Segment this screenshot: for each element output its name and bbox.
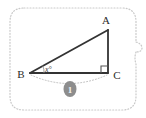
vertex-label-a: A <box>102 14 110 26</box>
frame-segment-top <box>24 8 136 42</box>
diagram-canvas: 1 A B C x° <box>0 0 146 118</box>
right-angle-icon <box>101 66 108 73</box>
vertex-label-c: C <box>113 69 120 81</box>
side-hypotenuse-ba <box>30 30 108 73</box>
measure-badge-label: 1 <box>68 85 73 95</box>
triangle-sides <box>30 30 108 73</box>
figure-frame <box>10 8 142 110</box>
geometry-figure: 1 A B C x° <box>0 0 146 118</box>
angle-label-x: x° <box>44 65 53 74</box>
vertex-label-b: B <box>17 68 24 80</box>
angle-arc-icon <box>43 66 44 74</box>
frame-right-notch <box>136 42 142 52</box>
